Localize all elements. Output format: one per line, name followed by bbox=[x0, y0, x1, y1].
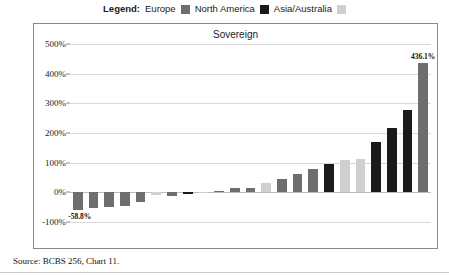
bar bbox=[340, 160, 350, 192]
plot-area: 500%400%300%200%100%0%-100% 436.1%-58.8% bbox=[70, 44, 431, 222]
chart-frame: Sovereign 500%400%300%200%100%0%-100% 43… bbox=[33, 23, 438, 249]
bar bbox=[246, 188, 256, 192]
bar bbox=[199, 192, 209, 193]
bar bbox=[89, 192, 99, 207]
legend-label-europe: Europe bbox=[145, 3, 176, 15]
data-label: -58.8% bbox=[68, 212, 91, 221]
legend-swatch-north-america bbox=[260, 5, 269, 14]
bar bbox=[324, 164, 334, 192]
bar bbox=[293, 174, 303, 192]
bar bbox=[104, 192, 114, 206]
y-axis-label: 500% bbox=[45, 39, 66, 49]
bar bbox=[183, 192, 193, 194]
y-axis-label: 0% bbox=[54, 187, 66, 197]
bar bbox=[371, 142, 381, 192]
bar bbox=[261, 183, 271, 192]
bar bbox=[403, 110, 413, 192]
bar bbox=[418, 63, 428, 192]
bar bbox=[120, 192, 130, 205]
bar bbox=[387, 128, 397, 193]
bar bbox=[167, 192, 177, 196]
y-axis-label: 100% bbox=[45, 158, 66, 168]
bar bbox=[151, 192, 161, 195]
legend-label-asia-australia: Asia/Australia bbox=[274, 3, 332, 15]
y-axis-label: 400% bbox=[45, 69, 66, 79]
chart-title: Sovereign bbox=[34, 29, 437, 40]
y-axis-label: 200% bbox=[45, 128, 66, 138]
bottom-divider bbox=[0, 272, 449, 273]
y-axis-label: 300% bbox=[45, 98, 66, 108]
bar bbox=[308, 169, 318, 193]
legend-swatch-europe bbox=[181, 5, 190, 14]
legend-label-north-america: North America bbox=[195, 3, 255, 15]
source-note: Source: BCBS 256, Chart 11. bbox=[13, 256, 119, 266]
bar bbox=[136, 192, 146, 202]
legend-swatch-asia-australia bbox=[337, 5, 346, 14]
bar bbox=[214, 191, 224, 193]
bar-series bbox=[70, 44, 431, 222]
bar bbox=[356, 159, 366, 192]
gridline bbox=[70, 222, 431, 223]
chart-legend: Legend: Europe North America Asia/Austra… bbox=[0, 3, 449, 15]
bar bbox=[230, 188, 240, 193]
bar bbox=[277, 179, 287, 193]
legend-title: Legend: bbox=[103, 3, 140, 15]
y-axis-label: -100% bbox=[42, 217, 66, 227]
data-label: 436.1% bbox=[411, 52, 435, 61]
bar bbox=[73, 192, 83, 209]
chart-page: Legend: Europe North America Asia/Austra… bbox=[0, 0, 449, 275]
